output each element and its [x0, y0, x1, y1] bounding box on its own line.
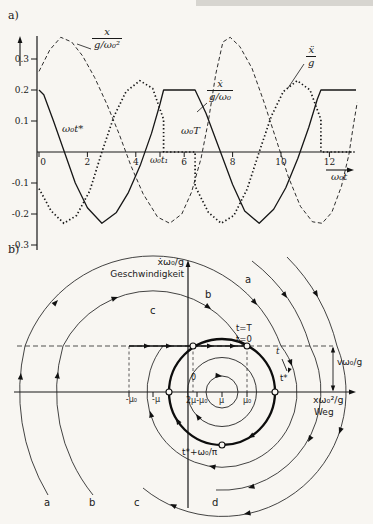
trajectory-letter-b-top: b — [205, 290, 211, 301]
svg-text:0.1: 0.1 — [15, 116, 29, 126]
belt-speed-label: vω₀/g — [337, 358, 362, 367]
t-star-marker-label: t* — [280, 374, 288, 383]
velocity-denominator: g/ω₀ — [207, 90, 233, 103]
t-star-annotation: ω₀t* — [62, 124, 83, 135]
svg-text:-0.2: -0.2 — [12, 209, 29, 219]
svg-text:8: 8 — [230, 157, 236, 167]
svg-text:0.2: 0.2 — [15, 85, 29, 95]
trajectory-letter-a-top: a — [245, 275, 251, 286]
svg-text:10: 10 — [275, 157, 287, 167]
velocity-axis-word: Geschwindigkeit — [109, 270, 184, 279]
plot-b-canvas — [0, 255, 373, 524]
tick-two-mu-minus-mu0: 2μ-μ₀ — [186, 397, 207, 405]
period-annotation: ω₀T — [181, 126, 200, 137]
time-axis-label: ω₀t — [331, 172, 347, 183]
time-T-label: t=T — [236, 324, 252, 333]
trajectory-letter-c-top: c — [150, 306, 156, 317]
position-axis-label: xω₀²/g — [313, 395, 343, 405]
t1-annotation: ω₀t₁ — [150, 156, 168, 165]
panel-a-tag: a) — [8, 10, 19, 22]
svg-text:0: 0 — [40, 157, 46, 167]
time-direction-label: t — [276, 347, 280, 356]
tick-mu0: μ₀ — [243, 397, 251, 405]
svg-text:6: 6 — [181, 157, 187, 167]
acceleration-curve-label: ẍ g — [306, 44, 316, 68]
velocity-curve-label: ẋ g/ω₀ — [207, 78, 233, 102]
displacement-numerator: x — [104, 26, 110, 38]
tick-mu: μ — [219, 397, 224, 405]
svg-text:0.3: 0.3 — [15, 54, 30, 64]
svg-text:4: 4 — [133, 157, 139, 167]
velocity-numerator: ẋ — [217, 78, 223, 90]
svg-text:2: 2 — [85, 157, 91, 167]
velocity-axis-label: ẋω₀/g — [146, 257, 184, 267]
trajectory-letter-a-bottom: a — [44, 498, 50, 509]
origin-label: 0 — [191, 374, 196, 382]
position-axis-word: Weg — [314, 408, 334, 417]
displacement-curve-label: x g/ω₀² — [92, 26, 122, 50]
trajectory-letter-b-bottom: b — [89, 498, 95, 509]
acceleration-denominator: g — [306, 56, 316, 69]
panel-b-tag: b) — [8, 244, 19, 256]
svg-text:-0.1: -0.1 — [12, 178, 29, 188]
t-half-marker-label: t*+ω₀/π — [182, 448, 217, 457]
tick-neg-mu0: -μ₀ — [117, 396, 137, 404]
svg-text:12: 12 — [324, 157, 335, 167]
displacement-denominator: g/ω₀² — [92, 38, 122, 51]
acceleration-numerator: ẍ — [308, 44, 314, 56]
figure: 0.30.20.1-0.1-0.2-0.3024681012 a) x g/ω₀… — [0, 0, 373, 524]
trajectory-letter-d-bottom: d — [212, 498, 218, 509]
time-0-label: t=0 — [236, 335, 252, 344]
trajectory-letter-c-bottom: c — [134, 498, 140, 509]
tick-neg-mu: -μ — [142, 396, 160, 404]
